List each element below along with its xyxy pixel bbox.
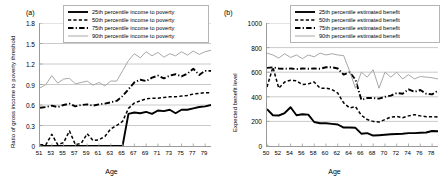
y-tick-label: 800 xyxy=(240,44,262,51)
legend-line-key-icon xyxy=(67,16,89,24)
x-tick-label: 51 xyxy=(36,150,43,156)
x-tick-label: 53 xyxy=(47,150,54,156)
legend-entry-label: 90th percentile estimated benefit xyxy=(319,32,400,40)
x-tick-label: 77 xyxy=(189,150,196,156)
y-tick-label: 0.6 xyxy=(13,102,35,109)
x-tick-label: 61 xyxy=(95,150,102,156)
panel-b-label: (b) xyxy=(224,9,233,16)
panel-b-legend-entry-1: 25th percentile estimated benefit xyxy=(294,8,436,16)
panel-a-legend-entry-2: 50th percentile income to poverty xyxy=(67,16,205,24)
legend-line-key-icon xyxy=(294,16,316,24)
x-tick-label: 55 xyxy=(59,150,66,156)
legend-entry-label: 75th percentile income to poverty xyxy=(92,24,174,32)
x-tick-label: 59 xyxy=(83,150,90,156)
panel-b-legend: 25th percentile estimated benefit50th pe… xyxy=(290,5,440,43)
panel-b-legend-entry-3: 75th percentile estimated benefit xyxy=(294,24,436,32)
y-tick-label: 400 xyxy=(240,93,262,100)
y-tick-label: 1.2 xyxy=(13,61,35,68)
panel-b-x-axis-title: Age xyxy=(223,168,446,175)
legend-line-key-icon xyxy=(67,24,89,32)
y-tick-label: 600 xyxy=(240,69,262,76)
x-tick-label: 60 xyxy=(322,150,329,156)
x-tick-label: 64 xyxy=(345,150,352,156)
x-tick-label: 58 xyxy=(310,150,317,156)
figure-two-panel-line-charts: (a) Ratio of gross income to poverty thr… xyxy=(0,0,446,187)
legend-line-key-icon xyxy=(294,24,316,32)
x-tick-label: 75 xyxy=(177,150,184,156)
y-tick-label: 0 xyxy=(13,143,35,150)
series-line-3 xyxy=(40,69,211,108)
x-tick-label: 69 xyxy=(142,150,149,156)
legend-line-key-icon xyxy=(294,32,316,40)
panel-a-legend-entry-1: 25th percentile income to poverty xyxy=(67,8,205,16)
x-tick-label: 72 xyxy=(392,150,399,156)
legend-line-key-icon xyxy=(67,8,89,16)
panel-b-legend-entry-2: 50th percentile estimated benefit xyxy=(294,16,436,24)
x-tick-label: 70 xyxy=(381,150,388,156)
x-tick-label: 66 xyxy=(357,150,364,156)
legend-line-key-icon xyxy=(67,32,89,40)
legend-entry-label: 90th percentile income to poverty xyxy=(92,32,174,40)
y-tick-label: 1000 xyxy=(240,20,262,27)
x-tick-label: 68 xyxy=(369,150,376,156)
x-tick-label: 62 xyxy=(333,150,340,156)
x-tick-label: 71 xyxy=(154,150,161,156)
x-tick-label: 63 xyxy=(106,150,113,156)
panel-a-x-axis-title: Age xyxy=(0,168,223,175)
legend-entry-label: 75th percentile estimated benefit xyxy=(319,24,400,32)
legend-entry-label: 50th percentile income to poverty xyxy=(92,16,174,24)
y-tick-label: 1.8 xyxy=(13,20,35,27)
y-tick-label: 0.9 xyxy=(13,81,35,88)
x-tick-label: 78 xyxy=(428,150,435,156)
series-line-4 xyxy=(267,53,438,88)
x-tick-label: 67 xyxy=(130,150,137,156)
legend-entry-label: 25th percentile estimated benefit xyxy=(319,8,400,16)
panel-a-label: (a) xyxy=(26,9,35,16)
panel-a: (a) Ratio of gross income to poverty thr… xyxy=(0,0,223,187)
y-tick-label: 1.5 xyxy=(13,40,35,47)
panel-a-legend-entry-3: 75th percentile income to poverty xyxy=(67,24,205,32)
panel-b-legend-entry-4: 90th percentile estimated benefit xyxy=(294,32,436,40)
series-line-4 xyxy=(40,50,211,88)
y-tick-label: 0 xyxy=(240,143,262,150)
panel-b-y-axis-title: Expected benefit level xyxy=(232,73,238,132)
x-tick-label: 57 xyxy=(71,150,78,156)
x-tick-label: 52 xyxy=(274,150,281,156)
panel-b: (b) Expected benefit level 0200400600800… xyxy=(223,0,446,187)
legend-line-key-icon xyxy=(294,8,316,16)
x-tick-label: 74 xyxy=(404,150,411,156)
x-tick-label: 79 xyxy=(201,150,208,156)
x-tick-label: 76 xyxy=(416,150,423,156)
x-tick-label: 54 xyxy=(286,150,293,156)
x-tick-label: 73 xyxy=(165,150,172,156)
panel-a-legend-entry-4: 90th percentile income to poverty xyxy=(67,32,205,40)
legend-entry-label: 25th percentile income to poverty xyxy=(92,8,174,16)
legend-entry-label: 50th percentile estimated benefit xyxy=(319,16,400,24)
x-tick-label: 56 xyxy=(298,150,305,156)
y-tick-label: 200 xyxy=(240,118,262,125)
series-line-2 xyxy=(40,93,211,145)
x-tick-label: 65 xyxy=(118,150,125,156)
panel-a-y-axis-title: Ratio of gross income to poverty thresho… xyxy=(10,36,16,148)
y-tick-label: 0.3 xyxy=(13,122,35,129)
x-tick-label: 50 xyxy=(263,150,270,156)
panel-a-legend: 25th percentile income to poverty50th pe… xyxy=(63,5,209,43)
